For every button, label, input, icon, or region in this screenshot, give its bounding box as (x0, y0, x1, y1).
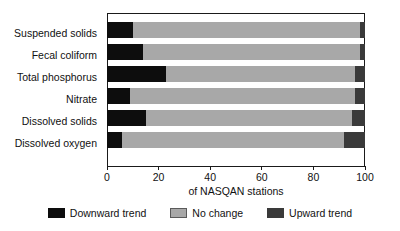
legend-label: No change (192, 207, 243, 219)
bar-segment (130, 88, 354, 104)
x-axis-tick (365, 166, 366, 170)
category-label: Dissolved oxygen (0, 132, 102, 154)
bar-segment (107, 88, 130, 104)
legend-item-downward-trend: Downward trend (48, 207, 146, 219)
legend-label: Downward trend (70, 207, 146, 219)
x-axis-tick (107, 166, 108, 170)
x-axis-tick (210, 166, 211, 170)
x-axis-tick-label: 40 (204, 171, 216, 183)
x-axis-tick (261, 166, 262, 170)
bar-row (107, 44, 365, 60)
bar-segment (355, 66, 365, 82)
category-label: Total phosphorus (0, 66, 102, 88)
bar-segment (122, 132, 344, 148)
legend-item-no-change: No change (170, 207, 243, 219)
x-axis-tick-label: 100 (356, 171, 374, 183)
x-axis: 020406080100 (107, 166, 365, 167)
bar-segment (355, 88, 365, 104)
category-label: Suspended solids (0, 22, 102, 44)
gray-square-icon (170, 208, 187, 218)
legend-item-upward-trend: Upward trend (267, 207, 352, 219)
bar-segment (143, 44, 360, 60)
x-axis-tick-label: 0 (104, 171, 110, 183)
legend-label: Upward trend (289, 207, 352, 219)
bar-row (107, 88, 365, 104)
bar-row (107, 22, 365, 38)
bars-area (107, 22, 365, 154)
bar-row (107, 132, 365, 148)
x-axis-tick-label: 80 (308, 171, 320, 183)
x-axis-tick (158, 166, 159, 170)
x-axis-title: of NASQAN stations (107, 185, 365, 197)
stacked-bar-chart: Suspended solids Fecal coliform Total ph… (0, 0, 400, 231)
bar-segment (107, 132, 122, 148)
x-axis-tick-label: 20 (153, 171, 165, 183)
dark-gray-square-icon (267, 208, 284, 218)
bar-segment (107, 110, 146, 126)
bar-segment (344, 132, 365, 148)
bar-segment (107, 66, 166, 82)
x-axis-tick (313, 166, 314, 170)
category-label: Fecal coliform (0, 44, 102, 66)
category-axis-labels: Suspended solids Fecal coliform Total ph… (0, 22, 102, 154)
bar-segment (107, 44, 143, 60)
bar-segment (166, 66, 354, 82)
bar-segment (360, 44, 365, 60)
bar-segment (133, 22, 360, 38)
bar-row (107, 66, 365, 82)
category-label: Nitrate (0, 88, 102, 110)
bar-segment (107, 22, 133, 38)
bar-segment (352, 110, 365, 126)
bar-row (107, 110, 365, 126)
x-axis-tick-label: 60 (256, 171, 268, 183)
bar-segment (360, 22, 365, 38)
category-label: Dissolved solids (0, 110, 102, 132)
chart-legend: Downward trend No change Upward trend (0, 203, 400, 223)
black-square-icon (48, 208, 65, 218)
bar-segment (146, 110, 352, 126)
